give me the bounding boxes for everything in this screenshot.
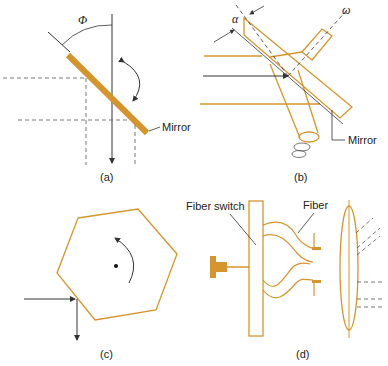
caption-c: (c) (100, 348, 113, 360)
mirror-label-a: Mirror (162, 121, 191, 133)
angle-alpha-label: α (232, 12, 239, 26)
fiber-switch (249, 201, 263, 336)
angle-arc (62, 25, 112, 45)
panel-d: Fiber switch Fiber (d) (186, 199, 384, 360)
mirror-label-b: Mirror (348, 134, 377, 146)
panel-b: α ω Mirror (b) (200, 3, 377, 183)
fiber-label: Fiber (303, 199, 328, 211)
rotation-center (114, 264, 118, 268)
caption-b: (b) (294, 171, 307, 183)
caption-d: (d) (296, 348, 309, 360)
rotation-arrow-icon (115, 238, 134, 283)
panel-a: Φ Mirror (a) (3, 13, 191, 183)
panel-c: (c) (24, 209, 177, 360)
optical-scanner-diagram: Φ Mirror (a) α ω Mir (0, 0, 388, 366)
fiber-switch-label: Fiber switch (186, 200, 245, 212)
omega-label: ω (342, 3, 350, 17)
mirror-slab (244, 18, 352, 118)
rotation-arrow-icon (124, 62, 140, 101)
caption-a: (a) (100, 171, 113, 183)
mirror (68, 55, 147, 133)
angle-phi-label: Φ (78, 13, 87, 27)
